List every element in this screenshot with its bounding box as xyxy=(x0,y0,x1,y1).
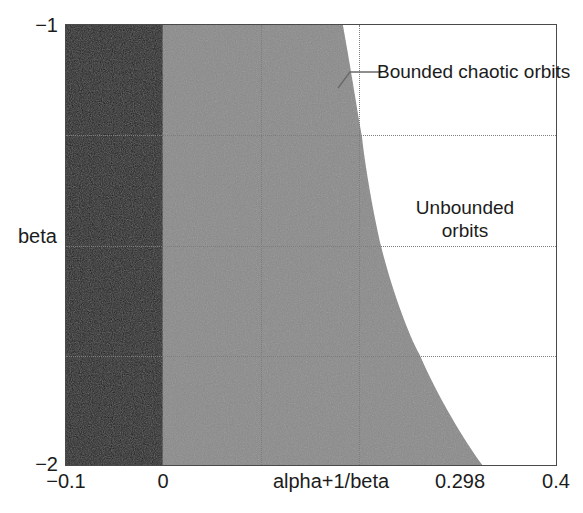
unbounded-label-line1: Unbounded xyxy=(390,196,540,219)
bounded-chaotic-label: Bounded chaotic orbits xyxy=(377,60,570,83)
ytick-label--1: −1 xyxy=(20,15,58,35)
unbounded-label: Unbounded orbits xyxy=(390,196,540,242)
xtick-label-0.4: 0.4 xyxy=(542,471,570,491)
xtick-label-0: 0 xyxy=(157,471,168,491)
y-axis-title: beta xyxy=(18,226,57,246)
figure-canvas: Bounded chaotic orbits Unbounded orbits … xyxy=(0,0,583,513)
unbounded-label-line2: orbits xyxy=(390,219,540,242)
plot-area xyxy=(65,24,557,466)
region-map xyxy=(66,25,556,465)
x-axis-title: alpha+1/beta xyxy=(273,471,389,491)
dark-region xyxy=(66,25,163,465)
xtick-label-0.298: 0.298 xyxy=(435,471,485,491)
xtick-label--0.1: −0.1 xyxy=(46,471,85,491)
